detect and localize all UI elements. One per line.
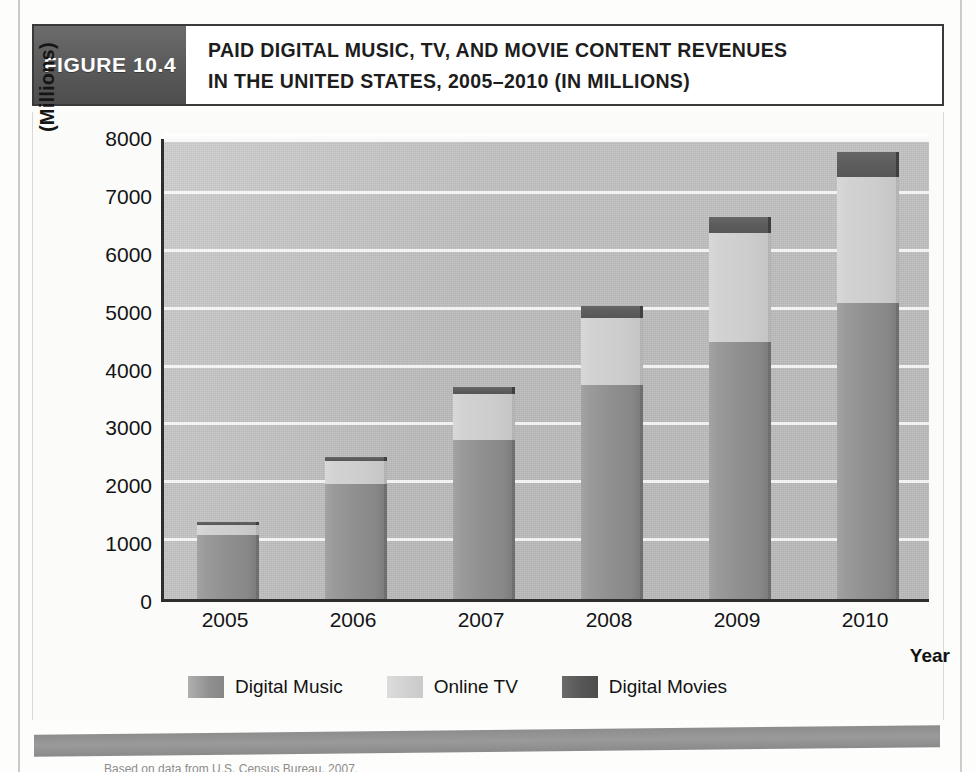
legend-item[interactable]: Online TV	[387, 676, 518, 698]
legend-item[interactable]: Digital Movies	[562, 676, 727, 698]
bar-segment[interactable]	[197, 522, 259, 525]
bar-segment[interactable]	[453, 387, 515, 394]
legend-swatch	[562, 676, 598, 698]
bar-segment[interactable]	[453, 394, 515, 440]
bar-segment[interactable]	[197, 535, 259, 599]
bar-segment[interactable]	[709, 342, 771, 599]
bar-group[interactable]	[581, 136, 643, 599]
y-tick-label: 0	[140, 590, 152, 614]
bar-series-container	[164, 139, 929, 599]
plot-area	[161, 139, 929, 602]
y-tick-label: 3000	[105, 416, 152, 440]
bar-segment[interactable]	[325, 461, 387, 484]
figure-header: FIGURE 10.4 PAID DIGITAL MUSIC, TV, AND …	[32, 24, 944, 106]
y-tick-label: 4000	[105, 359, 152, 383]
bar-group[interactable]	[453, 136, 515, 599]
y-tick-label: 7000	[105, 185, 152, 209]
figure-title-line-1: PAID DIGITAL MUSIC, TV, AND MOVIE CONTEN…	[208, 35, 932, 66]
bar-segment[interactable]	[709, 217, 771, 233]
bar-group[interactable]	[197, 136, 259, 599]
y-tick-label: 1000	[105, 532, 152, 556]
source-note: Based on data from U.S. Census Bureau, 2…	[104, 762, 358, 772]
bar-segment[interactable]	[709, 233, 771, 342]
x-tick-label: 2007	[458, 608, 505, 632]
y-axis-tick-labels: 010002000300040005000600070008000	[56, 130, 152, 610]
bar-segment[interactable]	[837, 152, 899, 177]
bar-segment[interactable]	[581, 385, 643, 599]
figure-title-line-2: IN THE UNITED STATES, 2005–2010 (IN MILL…	[208, 66, 932, 97]
legend-label: Digital Music	[235, 676, 343, 698]
y-tick-label: 2000	[105, 474, 152, 498]
figure-title-box: PAID DIGITAL MUSIC, TV, AND MOVIE CONTEN…	[186, 26, 942, 104]
legend-label: Online TV	[434, 676, 518, 698]
x-tick-label: 2006	[330, 608, 377, 632]
chart-legend: Digital MusicOnline TVDigital Movies	[188, 676, 727, 698]
x-axis-tick-labels: 200520062007200820092010	[161, 608, 929, 642]
bottom-decorative-band	[34, 725, 940, 756]
x-axis-title: Year	[910, 645, 950, 667]
bar-segment[interactable]	[197, 525, 259, 535]
bar-segment[interactable]	[453, 440, 515, 599]
bar-group[interactable]	[837, 136, 899, 599]
y-tick-label: 5000	[105, 301, 152, 325]
legend-item[interactable]: Digital Music	[188, 676, 343, 698]
x-tick-label: 2010	[842, 608, 889, 632]
bar-segment[interactable]	[581, 306, 643, 318]
x-tick-label: 2008	[586, 608, 633, 632]
x-tick-label: 2005	[202, 608, 249, 632]
y-axis-title: (Millions)	[36, 0, 59, 132]
y-tick-label: 8000	[105, 127, 152, 151]
x-tick-label: 2009	[714, 608, 761, 632]
bar-group[interactable]	[325, 136, 387, 599]
bar-segment[interactable]	[325, 484, 387, 599]
bar-group[interactable]	[709, 136, 771, 599]
gridline	[164, 133, 929, 136]
page-left-rule	[18, 0, 20, 772]
legend-swatch	[387, 676, 423, 698]
legend-label: Digital Movies	[609, 676, 727, 698]
bar-segment[interactable]	[581, 318, 643, 385]
bar-segment[interactable]	[837, 303, 899, 599]
legend-swatch	[188, 676, 224, 698]
bar-segment[interactable]	[325, 457, 387, 461]
figure-page: FIGURE 10.4 PAID DIGITAL MUSIC, TV, AND …	[0, 0, 976, 772]
y-tick-label: 6000	[105, 243, 152, 267]
figure-number-label: FIGURE 10.4	[44, 53, 177, 77]
bar-segment[interactable]	[837, 177, 899, 303]
page-right-rule	[960, 0, 962, 772]
